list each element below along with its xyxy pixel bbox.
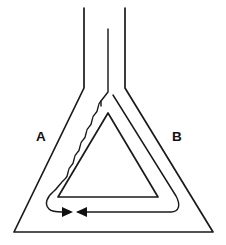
label-b: B (172, 129, 182, 144)
center-neck-tube (101, 29, 108, 106)
outer-flask-outline (14, 8, 213, 232)
inner-right-channel (78, 95, 179, 212)
right-arrow-icon (76, 207, 87, 217)
wavy-flow-line (46, 101, 101, 212)
flask-diagram-svg: A B (0, 0, 226, 245)
left-arrow-icon (62, 207, 73, 217)
figure-container: A B (0, 0, 226, 245)
label-a: A (36, 129, 46, 144)
inner-triangle (58, 113, 158, 197)
